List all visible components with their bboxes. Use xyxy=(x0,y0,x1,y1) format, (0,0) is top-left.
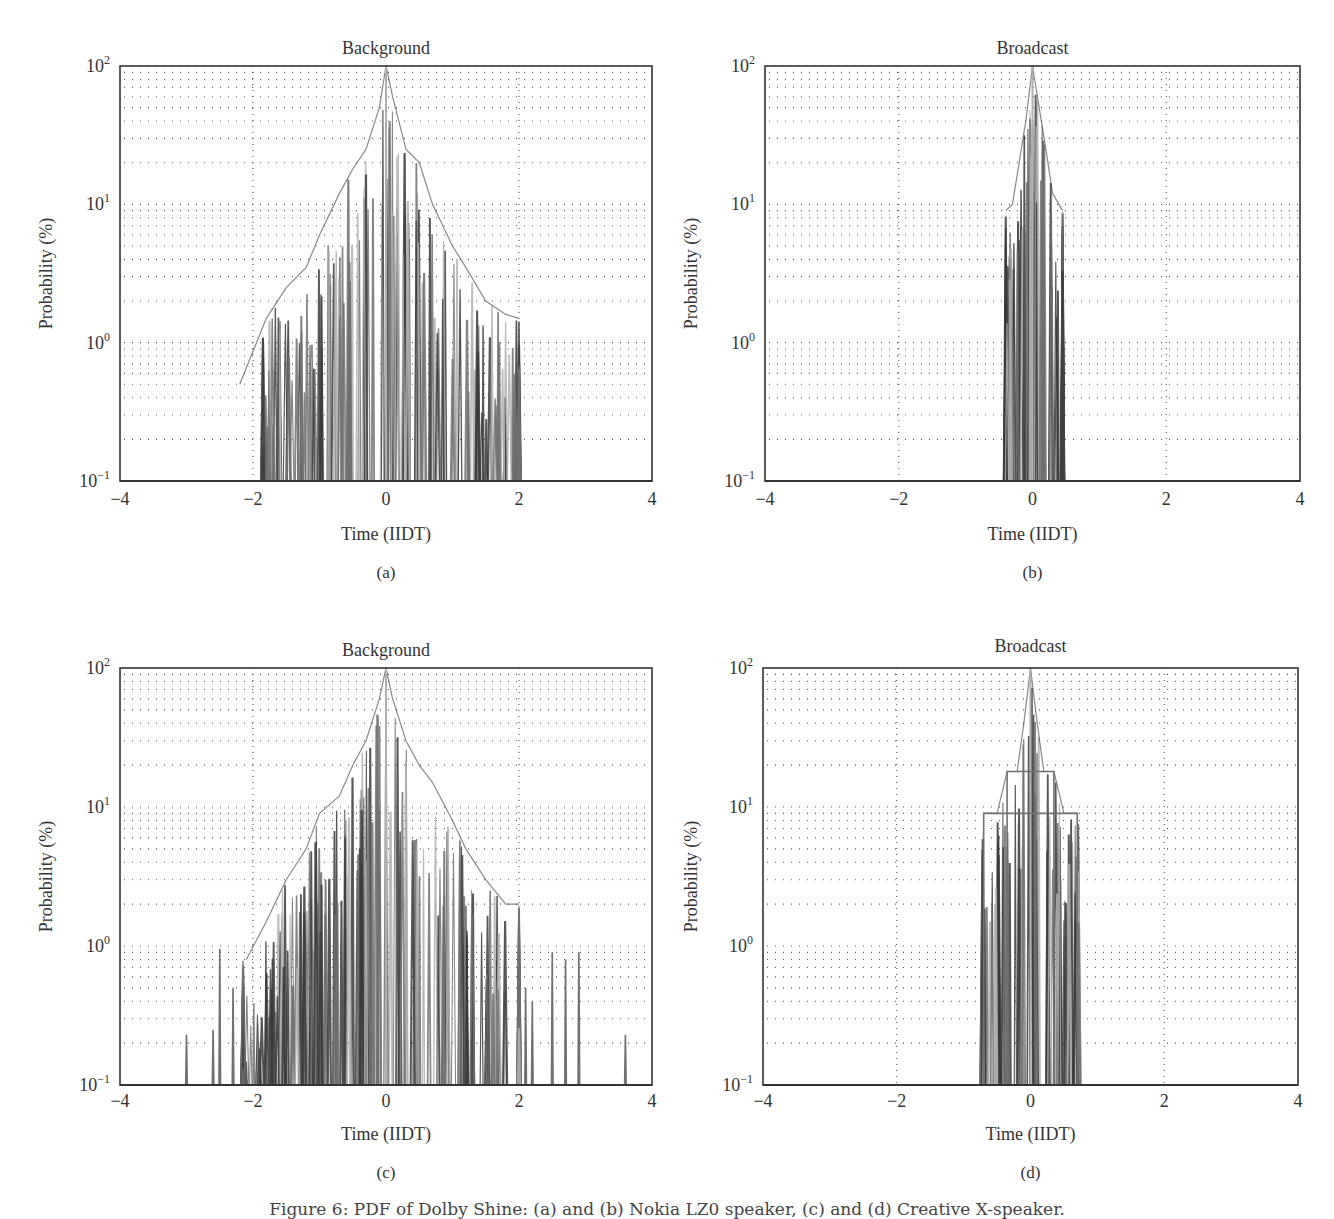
svg-text:100: 100 xyxy=(729,933,753,956)
svg-text:0: 0 xyxy=(1026,1091,1035,1111)
svg-text:101: 101 xyxy=(729,794,753,817)
svg-text:102: 102 xyxy=(729,655,753,678)
svg-text:2: 2 xyxy=(1160,1091,1169,1111)
y-tick-labels: 10−1100101102 xyxy=(722,655,753,1095)
panel-d: −4−202410−1100101102BroadcastTime (IIDT)… xyxy=(0,0,1334,1219)
panel-label: (d) xyxy=(1021,1163,1041,1182)
svg-text:−2: −2 xyxy=(887,1091,906,1111)
pdf-traces xyxy=(980,668,1080,1085)
x-axis-label: Time (IIDT) xyxy=(986,1124,1076,1145)
x-tick-labels: −4−2024 xyxy=(753,1091,1302,1111)
svg-text:4: 4 xyxy=(1294,1091,1303,1111)
plot-area-d: −4−202410−1100101102BroadcastTime (IIDT)… xyxy=(681,636,1303,1182)
chart-d: −4−202410−1100101102BroadcastTime (IIDT)… xyxy=(0,0,1334,1219)
y-axis-label: Probability (%) xyxy=(681,821,702,932)
chart-title: Broadcast xyxy=(995,636,1067,656)
figure-caption: Figure 6: PDF of Dolby Shine: (a) and (b… xyxy=(0,1199,1334,1219)
svg-text:−4: −4 xyxy=(753,1091,772,1111)
svg-text:10−1: 10−1 xyxy=(722,1072,753,1095)
